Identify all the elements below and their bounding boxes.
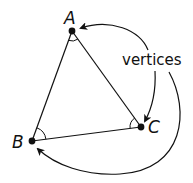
angle-mark-b (37, 128, 46, 139)
triangle-vertices-diagram: A B C vertices (0, 0, 193, 183)
edge-ab (32, 31, 72, 141)
angle-mark-a (69, 39, 78, 41)
arrow-to-c (145, 71, 155, 121)
vertex-label-b: B (12, 132, 24, 152)
diagram-svg: A B C vertices (0, 0, 193, 183)
angle-mark-c (130, 118, 135, 128)
edge-bc (32, 127, 141, 141)
vertex-a-dot (69, 28, 76, 35)
vertex-b-dot (29, 138, 36, 145)
vertex-label-a: A (63, 8, 76, 28)
vertex-label-c: C (148, 117, 160, 137)
triangle (32, 31, 141, 141)
vertices-annotation: vertices (122, 51, 182, 69)
annotation-arrows (38, 24, 180, 174)
vertex-c-dot (138, 124, 145, 131)
arrow-to-a (81, 24, 148, 50)
vertex-dots (29, 28, 145, 145)
edge-ca (72, 31, 141, 127)
